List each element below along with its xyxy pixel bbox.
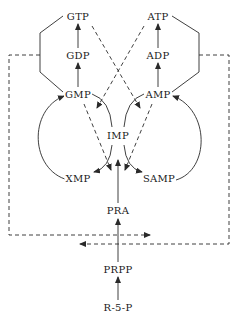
guanine-bracket bbox=[40, 16, 63, 92]
node-imp: IMP bbox=[106, 130, 130, 141]
adenine-bracket bbox=[172, 16, 199, 92]
atp-feedback-dashed bbox=[97, 26, 144, 108]
xmp-to-gmp-arrow bbox=[38, 96, 68, 180]
node-pra: PRA bbox=[106, 205, 130, 216]
imp-to-samp-arrow bbox=[124, 145, 142, 172]
node-amp: AMP bbox=[144, 89, 171, 100]
node-gmp: GMP bbox=[64, 89, 92, 100]
amp-to-imp-arc bbox=[124, 94, 144, 127]
node-prpp: PRPP bbox=[103, 264, 134, 275]
node-gdp: GDP bbox=[65, 50, 91, 61]
node-xmp: XMP bbox=[65, 173, 92, 184]
node-gtp: GTP bbox=[66, 11, 90, 22]
node-samp: SAMP bbox=[142, 173, 176, 184]
gtp-feedback-dashed bbox=[92, 26, 140, 108]
node-adp: ADP bbox=[146, 50, 171, 61]
node-r5p: R-5-P bbox=[103, 302, 134, 313]
purine-pathway-diagram: GTP ATP GDP ADP GMP AMP IMP XMP SAMP PRA… bbox=[0, 0, 236, 316]
samp-to-amp-arrow bbox=[173, 96, 201, 180]
imp-to-xmp-arrow bbox=[94, 145, 112, 172]
node-atp: ATP bbox=[147, 11, 170, 22]
